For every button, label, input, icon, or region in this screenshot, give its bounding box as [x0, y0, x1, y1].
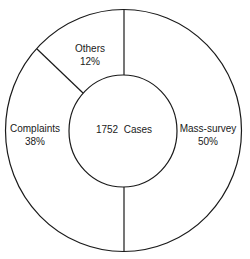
center-label: 1752 Cases [88, 123, 160, 136]
segment-label-complaints: Complaints 38% [10, 122, 60, 148]
complaints-pct: 38% [10, 135, 60, 148]
mass-survey-name: Mass-survey [176, 122, 240, 135]
others-name: Others [70, 42, 110, 55]
segment-label-others: Others 12% [70, 42, 110, 68]
others-pct: 12% [70, 55, 110, 68]
complaints-name: Complaints [10, 122, 60, 135]
segment-label-mass-survey: Mass-survey 50% [176, 122, 240, 148]
mass-survey-pct: 50% [176, 135, 240, 148]
